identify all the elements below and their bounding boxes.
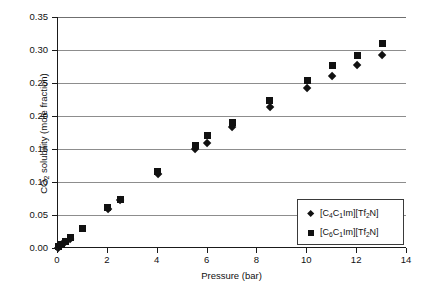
- legend-item-series-0[interactable]: [C4C1Im][Tf2N]: [305, 206, 379, 220]
- x-tick-mark-3: [207, 248, 208, 253]
- data-point-s1-5: [104, 204, 111, 211]
- y-tick-mark-2: [52, 182, 57, 183]
- x-tick-label-3: 6: [192, 254, 222, 265]
- data-point-s1-14: [354, 52, 361, 59]
- data-point-s1-11: [266, 97, 273, 104]
- data-point-s0-13: [328, 72, 337, 81]
- data-point-s1-7: [154, 168, 161, 175]
- data-point-s1-12: [304, 77, 311, 84]
- x-tick-mark-7: [406, 248, 407, 253]
- gridline-y-0.15: [58, 149, 406, 150]
- gridline-y-0.35: [58, 17, 406, 18]
- x-tick-mark-5: [306, 248, 307, 253]
- y-tick-mark-1: [52, 215, 57, 216]
- x-tick-mark-4: [256, 248, 257, 253]
- y-tick-mark-6: [52, 50, 57, 51]
- data-point-s1-3: [67, 234, 74, 241]
- y-tick-mark-5: [52, 83, 57, 84]
- data-point-s1-10: [229, 119, 236, 126]
- data-point-s1-15: [379, 40, 386, 47]
- x-axis-title: Pressure (bar): [57, 270, 406, 281]
- chart-figure: 0.000.050.100.150.200.250.300.35 0246810…: [0, 0, 423, 292]
- y-tick-mark-4: [52, 116, 57, 117]
- data-point-s1-8: [192, 142, 199, 149]
- legend: [C4C1Im][Tf2N] [C6C1Im][Tf2N]: [297, 199, 404, 245]
- x-tick-label-6: 12: [341, 254, 371, 265]
- data-point-s0-15: [378, 50, 387, 59]
- data-point-s0-11: [266, 103, 275, 112]
- x-tick-label-7: 14: [391, 254, 421, 265]
- data-point-s0-9: [203, 139, 212, 148]
- diamond-marker-icon: [305, 207, 317, 219]
- legend-label-series-0: [C4C1Im][Tf2N]: [320, 208, 379, 218]
- x-tick-mark-1: [107, 248, 108, 253]
- x-tick-label-5: 10: [291, 254, 321, 265]
- y-axis-title: CO2 solubility (mole fraction): [38, 14, 49, 254]
- legend-label-series-1: [C6C1Im][Tf2N]: [320, 227, 379, 237]
- x-tick-mark-6: [356, 248, 357, 253]
- square-marker-icon: [305, 226, 317, 238]
- x-tick-mark-0: [57, 248, 58, 253]
- y-tick-mark-3: [52, 149, 57, 150]
- x-tick-label-1: 2: [92, 254, 122, 265]
- data-point-s0-14: [353, 61, 362, 70]
- x-tick-label-0: 0: [42, 254, 72, 265]
- data-point-s1-4: [79, 225, 86, 232]
- x-tick-label-4: 8: [241, 254, 271, 265]
- data-point-s0-12: [303, 84, 312, 93]
- x-tick-label-2: 4: [142, 254, 172, 265]
- gridline-y-0.2: [58, 116, 406, 117]
- x-tick-mark-2: [157, 248, 158, 253]
- gridline-y-0.25: [58, 83, 406, 84]
- gridline-y-0.1: [58, 182, 406, 183]
- data-point-s1-9: [204, 132, 211, 139]
- data-point-s1-13: [329, 62, 336, 69]
- data-point-s1-6: [117, 196, 124, 203]
- legend-item-series-1[interactable]: [C6C1Im][Tf2N]: [305, 225, 379, 239]
- y-tick-mark-7: [52, 17, 57, 18]
